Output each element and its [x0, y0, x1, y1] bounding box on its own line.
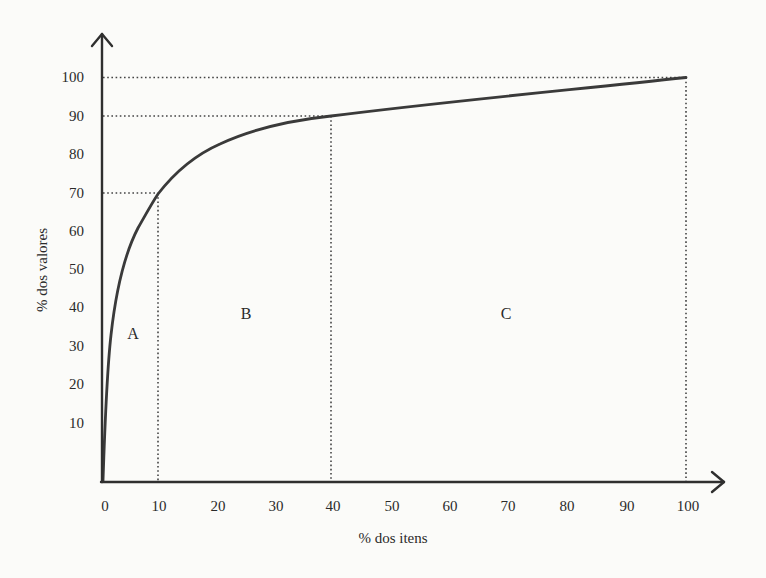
axes: [92, 34, 724, 492]
abc-curve-line: [103, 78, 686, 482]
x-tick-label: 0: [101, 498, 109, 514]
y-tick-label: 60: [69, 223, 84, 239]
x-tick-labels: 0 10 20 30 40 50 60 70 80 90 100: [101, 498, 699, 514]
y-tick-label: 80: [69, 146, 84, 162]
reference-lines: [103, 78, 686, 482]
y-tick-label: 30: [69, 338, 84, 354]
x-tick-label: 100: [677, 498, 700, 514]
y-axis-title: % dos valores: [34, 228, 50, 312]
x-tick-label: 60: [443, 498, 458, 514]
x-tick-label: 10: [152, 498, 167, 514]
y-tick-label: 100: [62, 69, 85, 85]
x-tick-label: 20: [211, 498, 226, 514]
x-tick-label: 30: [269, 498, 284, 514]
y-tick-label: 90: [69, 108, 84, 124]
y-tick-label: 70: [69, 185, 84, 201]
region-label-c: C: [501, 305, 512, 322]
y-tick-label: 50: [69, 261, 84, 277]
y-tick-label: 10: [69, 415, 84, 431]
x-tick-label: 90: [620, 498, 635, 514]
y-tick-label: 20: [69, 376, 84, 392]
x-tick-label: 40: [326, 498, 341, 514]
region-label-a: A: [127, 325, 139, 342]
x-axis-title: % dos itens: [358, 530, 427, 546]
x-tick-label: 50: [385, 498, 400, 514]
x-tick-label: 80: [560, 498, 575, 514]
x-tick-label: 70: [501, 498, 516, 514]
y-tick-labels: 10 20 30 40 50 60 70 80 90 100: [62, 69, 85, 431]
region-label-b: B: [241, 305, 252, 322]
y-tick-label: 40: [69, 299, 84, 315]
abc-curve-chart: 10 20 30 40 50 60 70 80 90 100 0 10 20 3…: [0, 0, 766, 578]
